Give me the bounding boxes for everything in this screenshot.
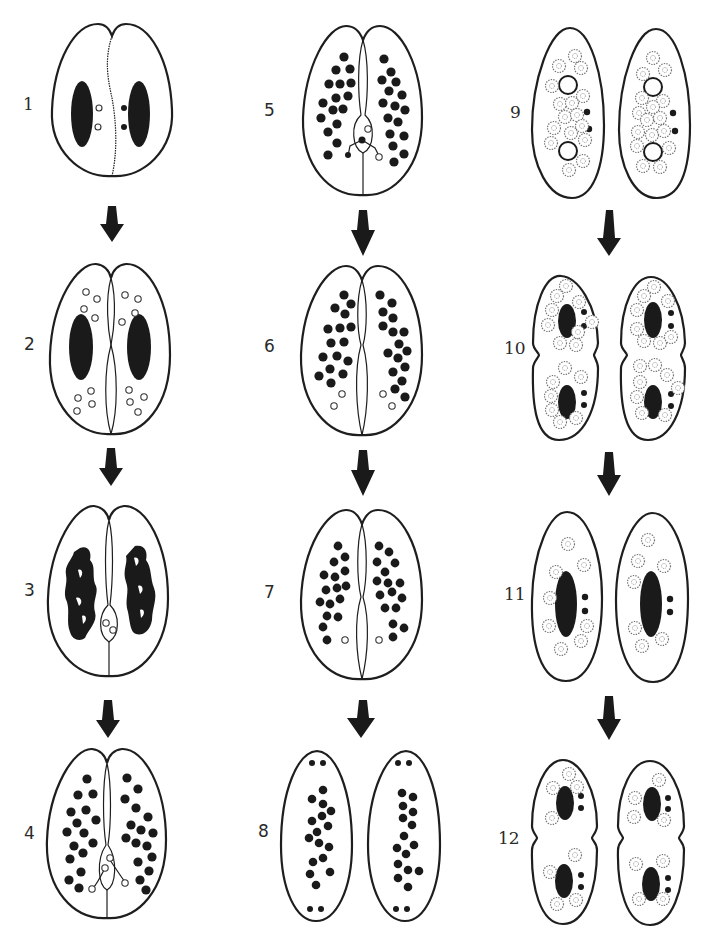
stage-2-pair [50, 264, 170, 434]
stage-5-pair [303, 26, 422, 195]
stage-12-dividing [532, 760, 684, 925]
arrow-down-icon [351, 450, 375, 496]
arrow-down-icon [100, 206, 124, 242]
stage-7-pair [301, 510, 422, 679]
arrow-down-icon [96, 700, 120, 738]
micronucleus-open [95, 124, 101, 130]
arrow-down-icon [597, 210, 621, 256]
conjugation-diagram [0, 0, 711, 947]
stage-8-exconjugants [281, 751, 440, 921]
macronucleus [71, 81, 93, 147]
arrow-down-icon [597, 452, 621, 496]
stage-11-daughters [532, 512, 688, 682]
micronucleus [121, 124, 127, 130]
macronucleus [69, 314, 93, 380]
micronucleus [121, 105, 127, 111]
stage-10-dividing [533, 276, 685, 440]
micronucleus-open [96, 105, 102, 111]
stage-9-exconjugants [532, 28, 690, 198]
stage-3-pair [48, 506, 168, 676]
arrow-down-icon [347, 700, 375, 738]
arrow-down-icon [351, 210, 375, 256]
stage-6-pair [301, 266, 422, 435]
macronuclear-anlage [644, 143, 662, 161]
macronuclear-anlage [559, 142, 577, 160]
stage-1-pair [52, 24, 172, 176]
macronucleus [127, 314, 151, 380]
macronucleus [128, 81, 150, 147]
stage-4-pair [47, 749, 166, 918]
macronuclear-anlage [559, 76, 577, 94]
arrow-down-icon [99, 448, 123, 486]
arrow-down-icon [597, 696, 621, 740]
